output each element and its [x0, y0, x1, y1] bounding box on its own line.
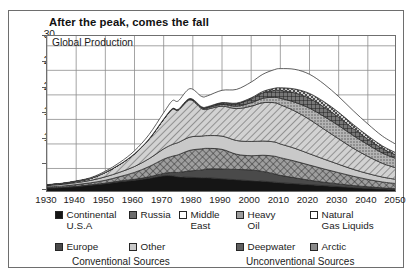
swatch-crosshatch-dark-icon	[129, 211, 137, 219]
chart-figure: After the peak, comes the fall Billions …	[8, 10, 404, 268]
panel-label: Global Production	[52, 37, 133, 48]
legend-item-heavy-oil[interactable]: Heavy Oil	[236, 209, 276, 231]
legend-label-heavy-oil: Heavy Oil	[248, 209, 276, 231]
legend-item-deepwater[interactable]: Deepwater	[236, 241, 295, 252]
swatch-solid-dark-gray-icon	[55, 243, 63, 251]
swatch-dark-crosshatch-icon	[236, 243, 244, 251]
legend-label-arctic: Arctic	[322, 241, 347, 252]
swatch-white-icon	[179, 211, 187, 219]
chart-title: After the peak, comes the fall	[49, 16, 209, 28]
chart-legend: Continental U.S.A Russia Middle East Eur…	[21, 209, 393, 267]
legend-caption-unconventional: Unconventional Sources	[246, 256, 354, 267]
legend-label-russia: Russia	[141, 209, 171, 220]
x-tick-2050: 2050	[378, 195, 412, 205]
legend-label-middle-east: Middle East	[191, 209, 220, 231]
plot-area: Global Production	[46, 35, 396, 192]
legend-label-continental-usa: Continental U.S.A	[67, 209, 117, 231]
swatch-light-gray-icon	[129, 243, 137, 251]
area-bands	[47, 69, 396, 192]
legend-label-europe: Europe	[67, 241, 99, 252]
legend-label-deepwater: Deepwater	[248, 241, 296, 252]
legend-item-middle-east[interactable]: Middle East	[179, 209, 220, 231]
legend-caption-conventional: Conventional Sources	[72, 256, 170, 267]
legend-item-europe[interactable]: Europe	[55, 241, 98, 252]
legend-item-other[interactable]: Other	[129, 241, 165, 252]
legend-label-other: Other	[141, 241, 166, 252]
swatch-solid-black-icon	[55, 211, 63, 219]
legend-item-russia[interactable]: Russia	[129, 209, 171, 220]
plot-wrapper: 30 25 20 15 10 5 0 Global Production	[46, 35, 396, 192]
swatch-checker-gray-icon	[310, 243, 318, 251]
legend-label-natural-gas-liquids: Natural Gas Liquids	[322, 209, 374, 231]
swatch-white-ngl-icon	[310, 211, 318, 219]
legend-item-continental-usa[interactable]: Continental U.S.A	[55, 209, 116, 231]
swatch-fine-dot-gray-icon	[236, 211, 244, 219]
stacked-area-svg	[47, 36, 396, 192]
legend-item-natural-gas-liquids[interactable]: Natural Gas Liquids	[310, 209, 374, 231]
legend-item-arctic[interactable]: Arctic	[310, 241, 346, 252]
